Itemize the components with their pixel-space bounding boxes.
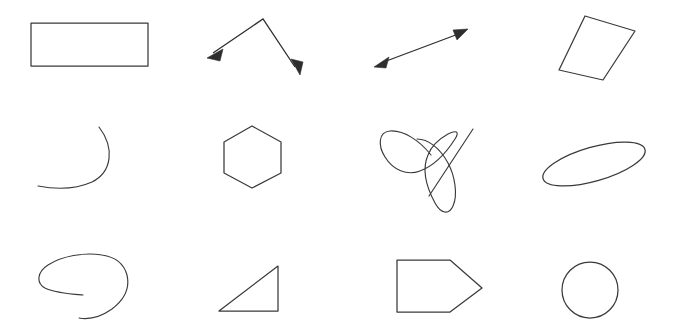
shape-right-triangle (219, 266, 278, 311)
shape-canvas (0, 0, 675, 330)
circle-outline (562, 262, 618, 318)
shape-open-spiral-loop (39, 254, 128, 318)
arrowhead-end-icon (453, 29, 468, 40)
shape-scribble-double-loop (380, 129, 473, 212)
shape-double-arrow-line (374, 29, 468, 68)
shape-pentagon-arrow-block (397, 260, 482, 312)
pentagon-arrow-block-outline (397, 260, 482, 312)
hexagon-outline (224, 126, 281, 188)
tilted-ellipse-outline (538, 133, 649, 195)
arrowhead-left-icon (207, 49, 223, 61)
shape-open-arc-curve (38, 127, 109, 188)
double-arrow-line-path (381, 33, 461, 63)
shape-tilted-ellipse (538, 133, 649, 195)
shape-circle (562, 262, 618, 318)
right-triangle-outline (219, 266, 278, 311)
shape-double-arrow-angle (207, 19, 303, 75)
shape-rectangle (31, 23, 148, 66)
shape-tilted-quadrilateral (559, 16, 635, 80)
open-spiral-loop-path (39, 254, 128, 318)
open-arc-curve-path (38, 127, 109, 188)
tilted-quadrilateral-outline (559, 16, 635, 80)
shape-sketch-sheet (0, 0, 675, 330)
arrowhead-start-icon (374, 57, 389, 68)
double-arrow-angle-path (213, 19, 295, 67)
arrowhead-right-icon (291, 59, 303, 75)
shape-hexagon (224, 126, 281, 188)
rectangle-outline (31, 23, 148, 66)
